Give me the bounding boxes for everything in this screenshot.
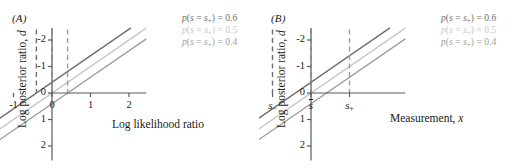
panel-b-y-axis-title-symbol: d (275, 30, 287, 36)
panel-b-x-axis-title: Measurement, x (390, 112, 463, 124)
panel-b-x-axis-title-text: Measurement, (390, 112, 458, 124)
xtick-label-1: s (296, 99, 326, 111)
ytick-label-0: 2 (24, 139, 46, 150)
legend-entry-0: p(s = s+) = 0.6 (182, 12, 237, 25)
panel-a-y-axis-title: Log posterior ratio, d (16, 30, 28, 128)
xtick-label-3: 2 (114, 99, 144, 110)
panel-a-y-axis-title-text: Log posterior ratio, (16, 36, 28, 128)
panel-b-y-axis-title-text: Log posterior ratio, (275, 36, 287, 128)
legend-entry-2: p(s = s+) = 0.4 (182, 36, 237, 49)
panel-a: (A) 210-1-2 -1012 Log posterior ratio, d… (0, 0, 259, 168)
panel-b-y-axis-title: Log posterior ratio, d (275, 30, 287, 128)
panel-a-x-axis-title: Log likelihood ratio (112, 118, 204, 130)
legend-entry-2: p(s = s+) = 0.4 (441, 36, 496, 49)
panel-b-x-axis-title-symbol: x (458, 112, 463, 124)
legend-entry-0: p(s = s+) = 0.6 (441, 12, 496, 25)
xtick-label-2: 1 (76, 99, 106, 110)
xtick-label-1: 0 (37, 99, 67, 110)
legend-entry-1: p(s = s+) = 0.5 (182, 24, 237, 37)
legend-entry-1: p(s = s+) = 0.5 (441, 24, 496, 37)
figure-container: (A) 210-1-2 -1012 Log posterior ratio, d… (0, 0, 518, 168)
panel-b: (B) 210-1-2 s−ss+ Log posterior ratio, d… (259, 0, 518, 168)
ytick-label-0: 2 (283, 139, 305, 150)
panel-a-y-axis-title-symbol: d (16, 30, 28, 36)
xtick-label-2: s+ (335, 99, 365, 113)
